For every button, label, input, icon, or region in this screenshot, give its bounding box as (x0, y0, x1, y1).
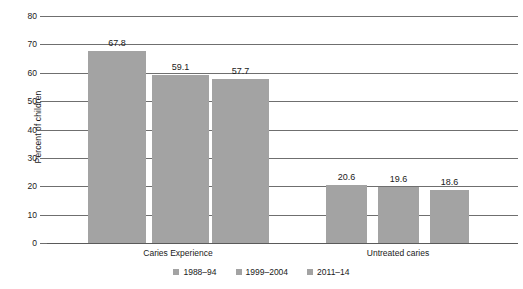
x-axis-category-label: Caries Experience (88, 248, 268, 258)
y-axis-tick-mark (40, 243, 47, 244)
bar (430, 190, 469, 243)
y-axis-tick-label: 50 (11, 97, 37, 106)
bar-value-label: 57.7 (212, 67, 269, 76)
y-axis-tick-mark (40, 158, 47, 159)
legend-label: 1988–94 (183, 268, 216, 277)
bar-value-label: 59.1 (152, 63, 209, 72)
legend-item[interactable]: 1999–2004 (236, 268, 289, 277)
bar-value-label: 18.6 (430, 178, 469, 187)
legend-swatch-icon (307, 269, 313, 275)
bar (326, 185, 367, 243)
y-axis-tick-label: 80 (11, 12, 37, 21)
legend-item[interactable]: 2011–14 (307, 268, 349, 277)
y-axis-tick-label: 0 (11, 239, 37, 248)
y-axis-tick-mark (40, 101, 47, 102)
y-axis-tick-mark (40, 73, 47, 74)
y-axis-tick-mark (40, 186, 47, 187)
bar-value-label: 20.6 (326, 173, 367, 182)
bar-value-label: 19.6 (378, 175, 419, 184)
axis-baseline (47, 243, 518, 244)
legend: 1988–941999–20042011–14 (0, 268, 523, 277)
plot-area: 67.859.157.720.619.618.6 (47, 16, 518, 243)
y-axis-tick-label: 60 (11, 69, 37, 78)
y-axis-tick-mark (40, 16, 47, 17)
gridline (47, 16, 518, 17)
y-axis-tick-label: 20 (11, 182, 37, 191)
y-axis-tick-label: 40 (11, 126, 37, 135)
bar (378, 187, 419, 243)
legend-swatch-icon (236, 269, 242, 275)
bar-value-label: 67.8 (88, 39, 146, 48)
bar (212, 79, 269, 243)
bar-chart: Percent of children 80706050403020100 67… (0, 0, 523, 289)
y-axis-tick-mark (40, 130, 47, 131)
legend-item[interactable]: 1988–94 (173, 268, 216, 277)
legend-label: 1999–2004 (246, 268, 289, 277)
y-axis-tick-label: 30 (11, 154, 37, 163)
y-axis-tick-label: 70 (11, 40, 37, 49)
y-axis-tick-label: 10 (11, 211, 37, 220)
bar (152, 75, 209, 243)
legend-swatch-icon (173, 269, 179, 275)
bar (88, 51, 146, 243)
legend-label: 2011–14 (317, 268, 349, 277)
y-axis-tick-mark (40, 215, 47, 216)
y-axis-tick-mark (40, 44, 47, 45)
x-axis-category-label: Untreated caries (308, 248, 488, 258)
